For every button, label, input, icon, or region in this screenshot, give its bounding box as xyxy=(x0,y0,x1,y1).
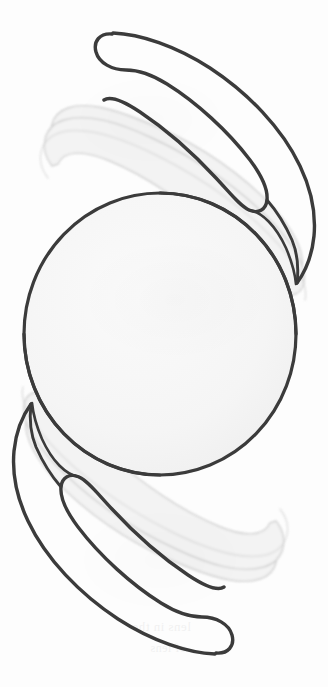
figure-canvas: of the optic andthe haptics. That thecom… xyxy=(0,0,328,687)
iol-illustration xyxy=(0,0,328,687)
